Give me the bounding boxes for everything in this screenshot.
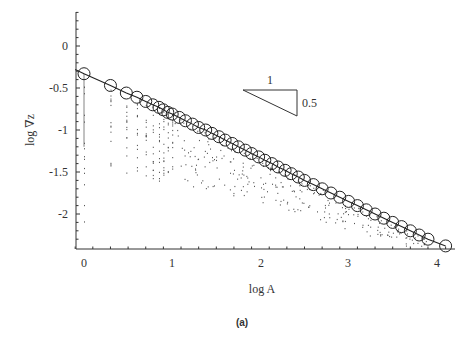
axis-ticks	[75, 12, 445, 249]
x-tick-2: 2	[258, 256, 264, 270]
sample-dots	[84, 74, 427, 247]
y-tick-1: -0.5	[49, 81, 68, 95]
slope-triangle	[243, 90, 297, 116]
y-tick-2: -1	[58, 123, 68, 137]
x-tick-0: 0	[81, 256, 87, 270]
chart: 0 1 2 3 4 0 -0.5 -1 -1.5 -2 log A log ∇z…	[0, 0, 473, 349]
slope-run-label: 1	[267, 73, 273, 87]
x-tick-3: 3	[345, 256, 351, 270]
y-axis-label: log ∇z	[23, 114, 37, 146]
x-axis-label: log A	[249, 282, 276, 296]
slope-rise-label: 0.5	[302, 96, 317, 110]
figure-caption: (a)	[236, 317, 248, 328]
y-tick-0: 0	[62, 39, 68, 53]
x-tick-1: 1	[169, 256, 175, 270]
y-tick-4: -2	[58, 207, 68, 221]
x-tick-4: 4	[434, 256, 440, 270]
y-tick-3: -1.5	[49, 165, 68, 179]
